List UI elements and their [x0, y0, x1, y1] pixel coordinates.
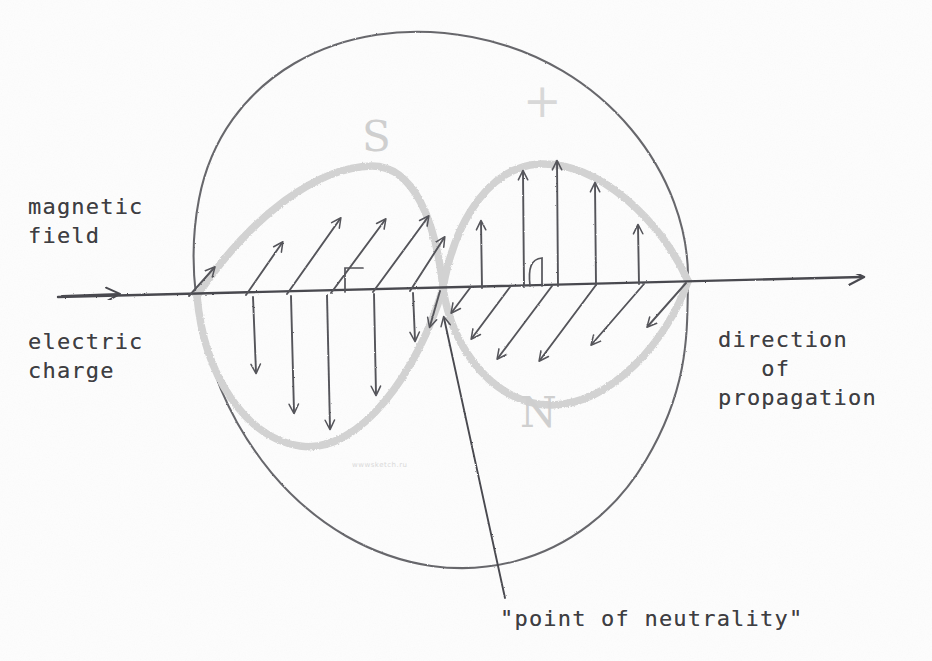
field-arrow [595, 184, 596, 285]
field-arrow [481, 222, 482, 288]
label-direction-of-propagation: direction of propagation [718, 325, 877, 412]
label-pole-north: N [520, 388, 557, 437]
watermark-text: wwwsketch.ru [352, 461, 408, 469]
field-arrow [523, 172, 524, 287]
field-arrow [557, 162, 558, 286]
label-pole-south: S [362, 112, 391, 161]
diagram-sheet: magnetic field electric charge direction… [0, 0, 932, 661]
label-point-of-neutrality: "point of neutrality" [500, 604, 803, 633]
label-electric-charge: electric charge [28, 327, 144, 385]
label-magnetic-field: magnetic field [28, 192, 144, 250]
field-arrow [638, 226, 639, 284]
label-polarity-plus: + [523, 74, 562, 128]
